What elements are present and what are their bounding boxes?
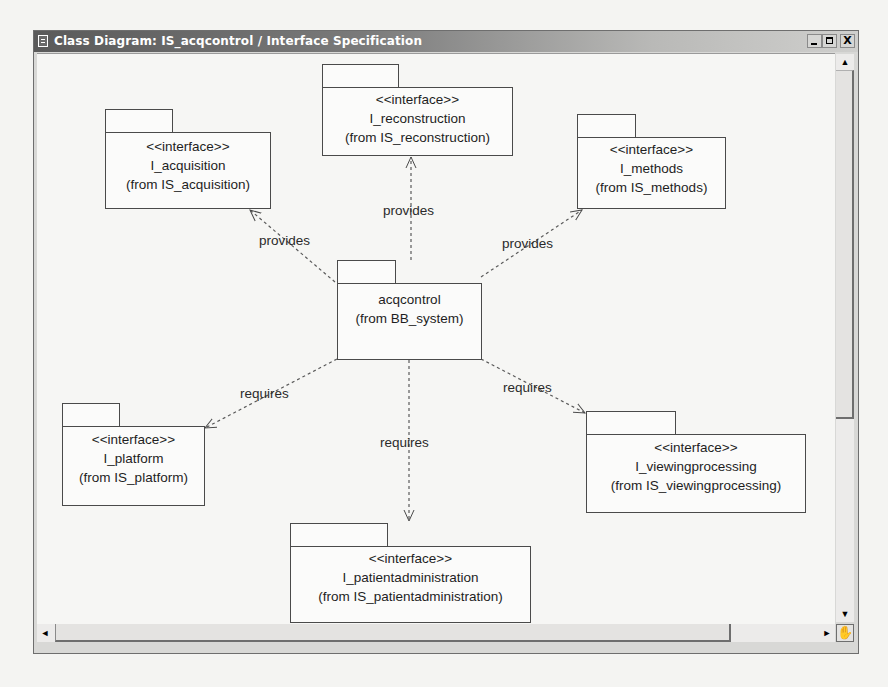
package-i-methods[interactable]: <<interface>> I_methods (from IS_methods…	[577, 114, 726, 209]
package-body: <<interface>> I_viewingprocessing (from …	[586, 434, 806, 513]
package-name: acqcontrol	[338, 290, 481, 309]
window-titlebar[interactable]: Class Diagram: IS_acqcontrol / Interface…	[34, 31, 858, 52]
package-name: I_acquisition	[106, 156, 270, 175]
package-origin: (from IS_acquisition)	[106, 175, 270, 194]
package-i-platform[interactable]: <<interface>> I_platform (from IS_platfo…	[62, 403, 205, 506]
package-origin: (from IS_methods)	[578, 178, 725, 197]
minimize-button[interactable]	[807, 34, 822, 48]
scroll-right-arrow-icon[interactable]: ►	[819, 624, 835, 642]
window-title: Class Diagram: IS_acqcontrol / Interface…	[54, 31, 422, 52]
package-tab	[337, 260, 396, 284]
horizontal-scrollbar[interactable]: ◄ ►	[37, 624, 835, 642]
package-body: <<interface>> I_patientadministration (f…	[290, 546, 531, 623]
package-origin: (from IS_viewingprocessing)	[587, 476, 805, 495]
vertical-scrollbar[interactable]: ▲ ▼	[836, 54, 854, 622]
package-body: <<interface>> I_reconstruction (from IS_…	[322, 87, 513, 156]
package-tab	[290, 523, 388, 547]
package-stereotype: <<interface>>	[106, 137, 270, 156]
package-origin: (from IS_reconstruction)	[323, 128, 512, 147]
package-stereotype: <<interface>>	[578, 140, 725, 159]
package-body: <<interface>> I_acquisition (from IS_acq…	[105, 132, 271, 209]
package-body: acqcontrol (from BB_system)	[337, 283, 482, 360]
package-tab	[105, 109, 173, 133]
package-tab	[322, 64, 399, 88]
package-i-reconstruction[interactable]: <<interface>> I_reconstruction (from IS_…	[322, 64, 513, 156]
package-stereotype: <<interface>>	[291, 549, 530, 568]
package-i-viewingprocessing[interactable]: <<interface>> I_viewingprocessing (from …	[586, 411, 806, 513]
package-i-patientadministration[interactable]: <<interface>> I_patientadministration (f…	[290, 523, 531, 623]
scroll-left-arrow-icon[interactable]: ◄	[37, 624, 53, 642]
package-name: I_platform	[63, 449, 204, 468]
package-body: <<interface>> I_platform (from IS_platfo…	[62, 426, 205, 506]
maximize-button[interactable]	[822, 34, 837, 48]
horizontal-scroll-thumb[interactable]	[55, 624, 731, 642]
package-stereotype: <<interface>>	[587, 438, 805, 457]
hand-pan-icon[interactable]: ✋	[836, 624, 854, 642]
package-tab	[577, 114, 636, 138]
package-origin: (from IS_platform)	[63, 468, 204, 487]
package-stereotype: <<interface>>	[63, 430, 204, 449]
package-name: I_viewingprocessing	[587, 457, 805, 476]
package-stereotype: <<interface>>	[323, 90, 512, 109]
package-origin: (from IS_patientadministration)	[291, 587, 530, 606]
diagram-document-icon	[38, 35, 48, 47]
package-tab	[586, 411, 676, 435]
package-name: I_patientadministration	[291, 568, 530, 587]
package-tab	[62, 403, 120, 427]
package-name: I_methods	[578, 159, 725, 178]
vertical-scroll-thumb[interactable]	[836, 70, 854, 419]
scroll-down-arrow-icon[interactable]: ▼	[836, 606, 854, 622]
package-i-acquisition[interactable]: <<interface>> I_acquisition (from IS_acq…	[105, 109, 271, 209]
scroll-up-arrow-icon[interactable]: ▲	[836, 54, 854, 70]
package-body: <<interface>> I_methods (from IS_methods…	[577, 137, 726, 209]
package-name: I_reconstruction	[323, 109, 512, 128]
package-acqcontrol[interactable]: acqcontrol (from BB_system)	[337, 260, 482, 360]
close-button[interactable]: X	[840, 34, 855, 48]
package-origin: (from BB_system)	[338, 309, 481, 328]
